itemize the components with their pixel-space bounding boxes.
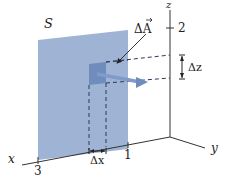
dz-label: Δz	[188, 61, 202, 74]
y-axis	[170, 137, 205, 148]
dx-label: Δx	[90, 154, 105, 167]
x-axis-label: x	[8, 152, 15, 166]
x-tick-label-3: 3	[34, 164, 42, 178]
surface-s	[38, 30, 128, 160]
dz-arrow-down-icon	[180, 73, 184, 78]
dz-arrow-up-icon	[180, 56, 184, 61]
normal-vector-head	[136, 77, 148, 88]
x-tick-label-1: 1	[124, 148, 132, 162]
z-tick-label-2: 2	[178, 21, 186, 35]
surface-diagram: S ΔA z 2 Δz x 3 1 Δx y	[0, 0, 228, 178]
z-axis-label: z	[165, 0, 172, 10]
vector-label: ΔA	[134, 22, 152, 36]
y-axis-label: y	[210, 141, 218, 155]
surface-label: S	[44, 16, 53, 31]
